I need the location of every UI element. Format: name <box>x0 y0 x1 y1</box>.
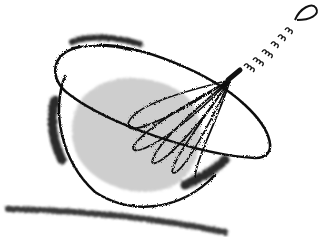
whisk-ferrule <box>228 70 240 80</box>
whisk-handle-coil <box>244 28 292 72</box>
illustration <box>0 0 324 247</box>
whisk-loop <box>295 6 317 20</box>
ground-shadow <box>8 209 225 232</box>
batter-fill <box>72 78 201 192</box>
whisk-bowl-drawing <box>0 0 324 247</box>
